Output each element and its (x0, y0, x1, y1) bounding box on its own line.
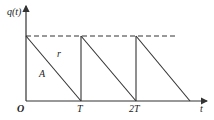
ramp-2 (81, 36, 136, 101)
ramp-3 (136, 36, 190, 101)
x-tick-T: T (77, 103, 84, 114)
slope-label: r (57, 48, 61, 59)
y-axis-label: q(t) (7, 6, 22, 18)
ramp-1 (26, 36, 81, 101)
x-axis-label: t (200, 103, 203, 114)
origin-label: O (17, 103, 24, 114)
area-label: A (38, 68, 46, 79)
x-tick-2T: 2T (129, 103, 141, 114)
sawtooth-diagram: q(t) t O T 2T r A (0, 0, 214, 120)
